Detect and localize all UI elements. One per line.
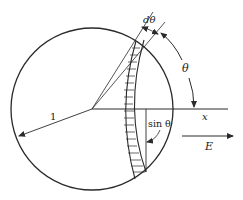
x-axis-label: x (202, 111, 208, 122)
sphere-zone-diagram: dθ θ 1 x sin θ E (0, 0, 243, 200)
sin-theta-pointer (147, 130, 160, 142)
dtheta-label: dθ (143, 14, 155, 25)
dtheta-arrow-left (142, 27, 150, 30)
theta-label: θ (182, 62, 189, 75)
theta-arc-lower (189, 78, 194, 107)
sin-theta-label: sin θ (148, 118, 171, 129)
radial-line-theta (92, 22, 165, 109)
radius-label: 1 (50, 111, 56, 122)
theta-arc-upper (161, 33, 182, 60)
field-label: E (204, 140, 213, 153)
radial-line-theta-plus-dtheta (92, 12, 153, 109)
